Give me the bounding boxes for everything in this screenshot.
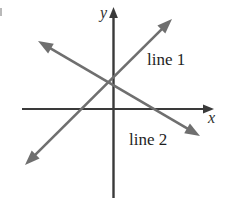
y-axis: [109, 7, 118, 198]
plot-canvas: [0, 0, 225, 198]
coordinate-plane-figure: y x line 1 line 2: [0, 0, 225, 198]
line-2-arrowhead-upper-left-icon: [184, 124, 200, 136]
line-1-label: line 1: [147, 51, 185, 68]
y-axis-arrowhead-icon: [109, 7, 118, 18]
line-2-label: line 2: [129, 131, 167, 148]
line-2-arrowhead-lower-right-icon: [38, 41, 54, 53]
x-axis: [22, 105, 214, 114]
y-axis-label: y: [100, 5, 107, 21]
x-axis-label: x: [208, 110, 215, 126]
